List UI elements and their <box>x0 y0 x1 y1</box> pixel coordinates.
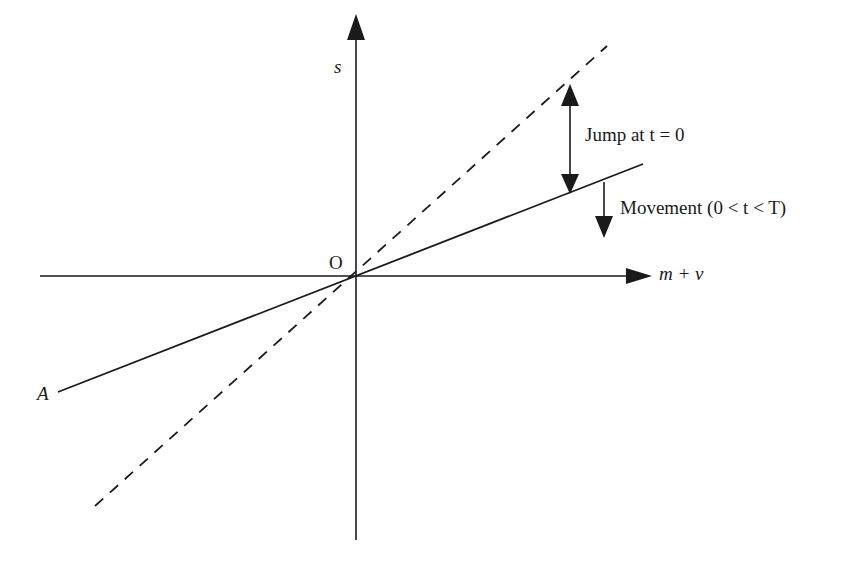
x-axis-label: m + v <box>659 263 703 285</box>
movement-arrow-down-icon <box>595 216 613 238</box>
jump-annotation: Jump at t = 0 <box>585 124 684 146</box>
x-axis-arrow-icon <box>626 268 652 284</box>
movement-arrow <box>595 182 613 238</box>
x-axis <box>40 268 652 284</box>
movement-annotation: Movement (0 < t < T) <box>620 197 786 219</box>
diagram-canvas <box>0 0 855 561</box>
jump-arrow <box>561 84 579 194</box>
y-axis-label: s <box>334 56 341 78</box>
origin-label: O <box>329 252 343 274</box>
line-a-label: A <box>37 383 49 405</box>
jump-arrow-down-icon <box>561 174 579 194</box>
jump-arrow-up-icon <box>561 84 579 106</box>
y-axis-arrow-icon <box>347 14 365 40</box>
solid-line-a <box>58 164 643 392</box>
